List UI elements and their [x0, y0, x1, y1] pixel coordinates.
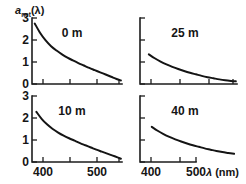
panel-label-0m: 0 m [62, 26, 83, 40]
panel-label-40m: 40 m [171, 104, 198, 118]
y-tick-label-2: 2 [22, 111, 29, 125]
panel-10m-curve [36, 112, 121, 159]
panel-40m-curve [152, 127, 234, 154]
y-tick-label-2: 2 [22, 33, 29, 47]
x-axis-label-symbol: λ [205, 166, 212, 178]
x-tick-label-500: 500 [186, 165, 206, 179]
x-tick-label-400: 400 [33, 165, 53, 179]
panel-25m: 25 m [140, 18, 237, 84]
x-tick-label-500: 500 [87, 165, 107, 179]
y-tick-label-1: 1 [22, 133, 29, 147]
y-axis-label: anet(λ) [15, 4, 45, 18]
panel-10m-x-tick-labels: 400 500 [33, 165, 107, 179]
panel-label-25m: 25 m [171, 26, 198, 40]
y-axis-label-argument: (λ) [31, 4, 45, 16]
absorption-spectra-figure: anet(λ) 0 1 2 3 [0, 0, 246, 184]
y-tick-label-0: 0 [22, 155, 29, 169]
panel-label-10m: 10 m [58, 104, 85, 118]
panel-0m: 0 1 2 3 0 m [22, 11, 122, 91]
panel-40m-x-tick-labels: 400 500 [141, 165, 206, 179]
figure-container: anet(λ) 0 1 2 3 [0, 0, 246, 184]
x-tick-label-400: 400 [141, 165, 161, 179]
x-axis-label: λ(nm) [205, 166, 239, 178]
y-tick-label-3: 3 [22, 11, 29, 25]
y-tick-label-3: 3 [22, 89, 29, 103]
x-axis-label-unit: (nm) [215, 166, 239, 178]
panel-0m-y-tick-labels: 0 1 2 3 [22, 11, 29, 91]
y-tick-label-1: 1 [22, 55, 29, 69]
panel-25m-curve [149, 54, 236, 81]
panel-10m-y-tick-labels: 0 1 2 3 [22, 89, 29, 169]
panel-10m: 0 1 2 3 400 500 10 m [22, 89, 122, 179]
